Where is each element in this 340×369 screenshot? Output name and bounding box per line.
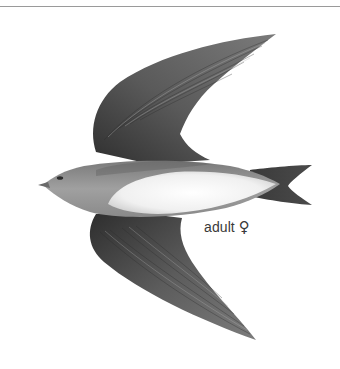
bird-body [38, 161, 280, 217]
age-sex-caption: adult♀ [204, 218, 250, 236]
age-label: adult [204, 219, 235, 235]
female-symbol-icon: ♀ [239, 218, 250, 236]
bird-illustration [0, 0, 340, 369]
upper-wing [93, 34, 276, 164]
